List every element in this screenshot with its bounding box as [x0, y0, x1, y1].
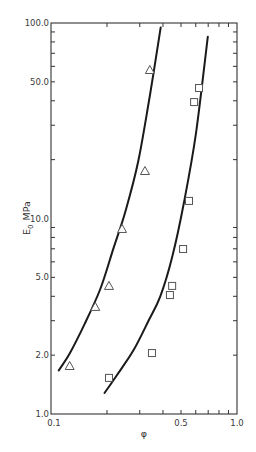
y-tick-label: 5.0 — [35, 272, 49, 282]
square-marker — [186, 197, 193, 204]
y-tick-label: 10.0 — [30, 214, 49, 224]
y-tick-label: 2.0 — [35, 350, 49, 360]
x-tick-label: 0.5 — [174, 418, 188, 428]
chart: 0.10.51.01.02.05.010.050.0100.0 φ E0MPa — [0, 0, 256, 452]
y-tick-label: 1.0 — [35, 409, 49, 419]
square-marker — [166, 292, 173, 299]
fit-curve-squares — [105, 37, 208, 393]
y-tick-label: 50.0 — [30, 77, 49, 87]
square-marker — [196, 85, 203, 92]
triangle-marker — [145, 65, 154, 73]
plot-frame — [51, 23, 237, 414]
y-tick-label: 100.0 — [25, 18, 49, 28]
fit-curves — [59, 27, 208, 393]
square-marker — [191, 99, 198, 106]
square-marker — [148, 350, 155, 357]
triangle-marker — [104, 281, 113, 289]
square-marker — [180, 246, 187, 253]
triangle-marker — [140, 166, 149, 174]
x-tick-label: 0.1 — [47, 418, 61, 428]
tick-labels: 0.10.51.01.02.05.010.050.0100.0 — [25, 18, 244, 428]
axis-ticks — [51, 23, 237, 414]
data-markers — [65, 65, 202, 381]
fit-curve-triangles — [59, 27, 161, 370]
triangle-marker — [118, 224, 127, 232]
square-marker — [105, 374, 112, 381]
triangle-marker — [65, 362, 74, 370]
x-axis-label: φ — [141, 428, 147, 439]
square-marker — [169, 282, 176, 289]
axis-labels: φ E0MPa — [21, 201, 147, 439]
plot-border — [51, 23, 237, 414]
x-tick-label: 1.0 — [230, 418, 244, 428]
